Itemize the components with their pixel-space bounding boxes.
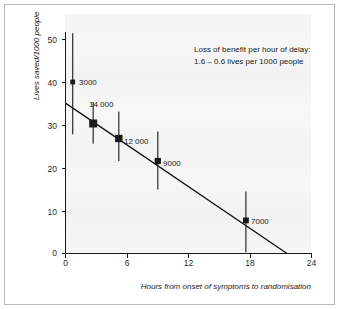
figure-container: 50 40 30 20 10 0 0 6 12 18 24 3000: [0, 0, 339, 309]
point-label-14000: 14 000: [89, 100, 114, 109]
y-axis-title: Lives saved/1000 people: [32, 11, 41, 100]
y-tick-label-40: 40: [48, 78, 58, 88]
marker-7000: [243, 218, 249, 224]
x-tick-label-24: 24: [307, 258, 317, 268]
regression-line: [66, 103, 288, 253]
point-label-7000: 7000: [251, 217, 269, 226]
marker-9000: [155, 158, 161, 164]
x-tick-label-18: 18: [245, 258, 255, 268]
y-tick-label-30: 30: [48, 121, 58, 131]
y-axis-ticks: [62, 40, 66, 254]
marker-14000: [89, 120, 97, 128]
y-tick-label-0: 0: [52, 248, 57, 258]
y-tick-label-50: 50: [48, 35, 58, 45]
data-series: 3000 14 000 12 000 9000 7000: [70, 33, 269, 252]
marker-3000: [70, 80, 75, 85]
point-label-9000: 9000: [163, 159, 181, 168]
annotation-line-2: 1.6 – 0.6 lives per 1000 people: [194, 57, 304, 66]
y-tick-label-10: 10: [48, 207, 58, 217]
x-tick-label-12: 12: [184, 258, 194, 268]
chart-svg: 50 40 30 20 10 0 0 6 12 18 24 3000: [0, 0, 339, 309]
marker-12000: [115, 135, 122, 142]
y-tick-label-20: 20: [48, 164, 58, 174]
point-label-12000: 12 000: [124, 137, 149, 146]
annotation-line-1: Loss of benefit per hour of delay:: [194, 45, 311, 54]
x-axis-title: Hours from onset of symptoms to randomis…: [141, 282, 312, 291]
x-tick-label-6: 6: [125, 258, 130, 268]
x-tick-label-0: 0: [63, 258, 68, 268]
x-axis-ticks: [66, 254, 312, 258]
point-label-3000: 3000: [79, 78, 97, 87]
